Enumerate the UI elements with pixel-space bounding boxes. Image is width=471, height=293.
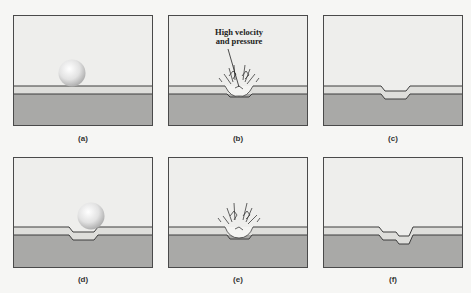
single-dent-diagram [324, 16, 463, 126]
sphere-icon [59, 60, 86, 87]
panel-c [323, 15, 463, 126]
panel-d [13, 157, 153, 268]
panel-b: High velocity and pressure [168, 15, 308, 126]
splash-icon [218, 203, 260, 230]
splash-icon [219, 65, 259, 89]
annotation-label: High velocity and pressure [199, 28, 279, 46]
flat-surface-diagram [14, 16, 153, 126]
sphere-icon [78, 203, 105, 230]
annotation-line-2: and pressure [199, 37, 279, 46]
panel-e [168, 157, 308, 268]
caption-e: (e) [168, 275, 308, 284]
panel-a [13, 15, 153, 126]
caption-a: (a) [13, 134, 153, 143]
caption-c: (c) [323, 134, 463, 143]
double-dent-diagram [324, 158, 463, 268]
caption-d: (d) [13, 275, 153, 284]
caption-b: (b) [168, 134, 308, 143]
second-impact-diagram [169, 158, 308, 268]
panel-f [323, 157, 463, 268]
caption-f: (f) [323, 275, 463, 284]
dented-surface-with-sphere-diagram [14, 158, 153, 268]
annotation-leader-line [228, 49, 239, 87]
